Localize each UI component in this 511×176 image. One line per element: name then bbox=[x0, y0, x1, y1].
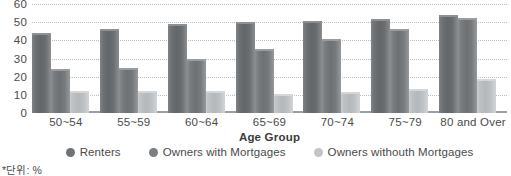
bar-cap bbox=[322, 39, 341, 41]
bar[interactable] bbox=[32, 33, 51, 113]
bar-group bbox=[371, 4, 439, 113]
legend-label: Renters bbox=[80, 146, 121, 158]
bar[interactable] bbox=[187, 59, 206, 114]
bar[interactable] bbox=[341, 92, 360, 113]
x-axis-tick-label: 75~79 bbox=[371, 116, 439, 132]
bar[interactable] bbox=[458, 18, 477, 113]
legend: RentersOwners with MortgagesOwners witho… bbox=[32, 146, 507, 158]
legend-swatch-icon bbox=[314, 148, 323, 157]
bar[interactable] bbox=[70, 91, 89, 113]
legend-item[interactable]: Renters bbox=[66, 146, 121, 158]
y-axis-tick: 30 bbox=[14, 53, 27, 65]
bar[interactable] bbox=[274, 94, 293, 113]
bar[interactable] bbox=[439, 15, 458, 113]
y-axis-tick: 10 bbox=[14, 89, 27, 101]
bar[interactable] bbox=[168, 24, 187, 113]
bar-cap bbox=[138, 91, 157, 93]
bar[interactable] bbox=[409, 89, 428, 113]
bar-chart: 6050403020100 50~5455~5960~6465~6970~747… bbox=[0, 0, 511, 176]
legend-label: Owners with Mortgages bbox=[163, 146, 286, 158]
bar-cap bbox=[70, 91, 89, 93]
bar[interactable] bbox=[255, 49, 274, 113]
bar-cap bbox=[32, 33, 51, 35]
bar[interactable] bbox=[206, 91, 225, 113]
bar[interactable] bbox=[390, 29, 409, 113]
bar[interactable] bbox=[236, 22, 255, 113]
x-axis-tick-label: 55~59 bbox=[100, 116, 168, 132]
x-axis-labels: 50~5455~5960~6465~6970~7475~7980 and Ove… bbox=[32, 116, 507, 132]
legend-swatch-icon bbox=[149, 148, 158, 157]
bar[interactable] bbox=[100, 29, 119, 113]
bar-cap bbox=[119, 68, 138, 70]
bar-group bbox=[32, 4, 100, 113]
bar-cap bbox=[206, 91, 225, 93]
legend-swatch-icon bbox=[66, 148, 75, 157]
bar[interactable] bbox=[371, 19, 390, 113]
y-axis-tick: 0 bbox=[20, 107, 27, 119]
x-axis-tick-label: 65~69 bbox=[236, 116, 304, 132]
bar-cap bbox=[303, 21, 322, 23]
bar-cap bbox=[168, 24, 187, 26]
x-axis-tick-label: 50~54 bbox=[32, 116, 100, 132]
bar-cap bbox=[439, 15, 458, 17]
bar[interactable] bbox=[303, 21, 322, 113]
bar-cap bbox=[187, 59, 206, 61]
x-axis-tick-label: 60~64 bbox=[168, 116, 236, 132]
bar-cap bbox=[458, 18, 477, 20]
legend-label: Owners withouth Mortgages bbox=[328, 146, 474, 158]
bar-group bbox=[168, 4, 236, 113]
x-axis-title: Age Group bbox=[32, 131, 507, 143]
legend-item[interactable]: Owners with Mortgages bbox=[149, 146, 286, 158]
bar-cap bbox=[409, 89, 428, 91]
bar-cap bbox=[477, 79, 496, 81]
bar-group bbox=[100, 4, 168, 113]
y-axis-tick: 40 bbox=[14, 34, 27, 46]
bar-cap bbox=[341, 92, 360, 94]
bar-group bbox=[439, 4, 507, 113]
footnote: *단위: % bbox=[2, 162, 42, 176]
x-axis-tick-label: 70~74 bbox=[303, 116, 371, 132]
y-axis-tick: 50 bbox=[14, 16, 27, 28]
bar-group bbox=[236, 4, 304, 113]
bar-cap bbox=[100, 29, 119, 31]
bar-cap bbox=[371, 19, 390, 21]
legend-item[interactable]: Owners withouth Mortgages bbox=[314, 146, 474, 158]
y-axis-tick: 60 bbox=[14, 0, 27, 10]
bar-cap bbox=[51, 69, 70, 71]
bar-group bbox=[303, 4, 371, 113]
bar-cap bbox=[390, 29, 409, 31]
plot-area: 6050403020100 bbox=[0, 4, 511, 116]
y-axis: 6050403020100 bbox=[0, 4, 30, 116]
bar[interactable] bbox=[51, 69, 70, 113]
y-axis-tick: 20 bbox=[14, 71, 27, 83]
bar-groups bbox=[32, 4, 507, 113]
bar[interactable] bbox=[322, 39, 341, 113]
bar-cap bbox=[255, 49, 274, 51]
bar[interactable] bbox=[119, 68, 138, 113]
bar[interactable] bbox=[138, 91, 157, 113]
bar-cap bbox=[274, 94, 293, 96]
bar[interactable] bbox=[477, 79, 496, 113]
bar-cap bbox=[236, 22, 255, 24]
x-axis-tick-label: 80 and Over bbox=[439, 116, 507, 132]
